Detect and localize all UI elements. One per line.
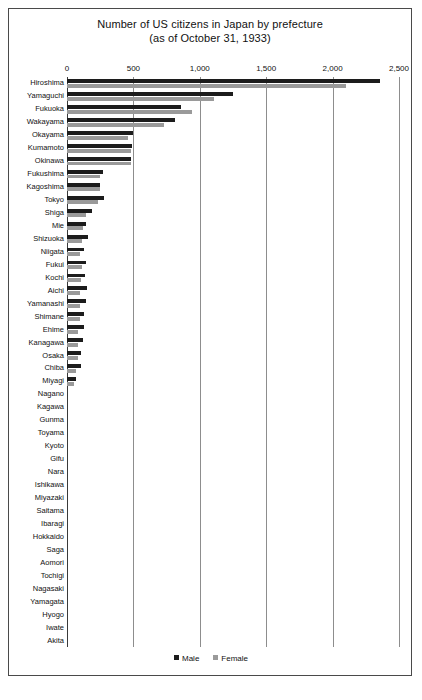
bar-male [67,261,86,265]
bar-row: Aichi [67,284,399,297]
category-label: Aichi [48,287,64,295]
category-label: Fukui [46,261,64,269]
chart-figure: Number of US citizens in Japan by prefec… [8,8,412,676]
bar-row: Kanagawa [67,336,399,349]
bar-row: Hyogo [67,608,399,621]
bar-male [67,377,76,381]
bar-row: Saga [67,543,399,556]
bar-row: Shizuoka [67,232,399,245]
x-axis-tick-labels: 05001,0001,5002,0002,500 [9,64,413,78]
x-tick-label: 500 [127,64,140,73]
category-label: Okinawa [35,157,64,165]
legend-swatch-female [213,655,218,660]
legend-item: Male [174,654,199,663]
bar-male [67,274,85,278]
category-label: Chiba [44,364,64,372]
bar-male [67,118,175,122]
bar-row: Aomori [67,556,399,569]
bar-row: Fukushima [67,168,399,181]
category-label: Mie [52,222,64,230]
category-label: Fukuoka [35,105,64,113]
bar-row: Saitama [67,505,399,518]
category-label: Niigata [41,248,64,256]
bar-female [67,369,76,373]
bar-row: Iwate [67,621,399,634]
bar-male [67,364,81,368]
category-label: Toyama [38,429,64,437]
category-label: Shiga [45,209,64,217]
category-label: Tokyo [44,196,64,204]
bar-female [67,110,192,114]
category-label: Fukushima [27,170,64,178]
legend-label: Male [182,654,199,663]
bar-row: Nagano [67,388,399,401]
bar-row: Miyazaki [67,492,399,505]
category-label: Kyoto [45,442,64,450]
bar-row: Hiroshima [67,77,399,90]
bar-row: Kyoto [67,440,399,453]
bar-female [67,317,80,321]
category-label: Saga [46,546,64,554]
category-label: Nagano [38,390,64,398]
bar-male [67,170,103,174]
bar-row: Shimane [67,310,399,323]
chart-legend: MaleFemale [9,654,413,663]
x-tick-label: 1,000 [190,64,210,73]
bar-male [67,157,131,161]
page-title: Number of US citizens in Japan by prefec… [9,17,411,31]
category-label: Wakayama [27,118,64,126]
bar-rows: HiroshimaYamaguchiFukuokaWakayamaOkayama… [67,77,399,647]
category-label: Aomori [40,559,64,567]
x-tick-label: 2,000 [323,64,343,73]
category-label: Okayama [32,131,64,139]
bar-male [67,131,133,135]
category-label: Gunma [39,416,64,424]
bar-female [67,123,164,127]
category-label: Yamagata [30,598,64,606]
bar-row: Shiga [67,207,399,220]
bar-row: Toyama [67,427,399,440]
category-label: Hokkaido [33,533,64,541]
bar-row: Wakayama [67,116,399,129]
bar-male [67,299,86,303]
category-label: Hyogo [42,611,64,619]
bar-female [67,213,86,217]
bar-male [67,235,88,239]
category-label: Nara [48,468,64,476]
bar-female [67,291,80,295]
plot-area: HiroshimaYamaguchiFukuokaWakayamaOkayama… [67,77,399,647]
bar-female [67,84,346,88]
legend-item: Female [213,654,248,663]
category-label: Ishikawa [35,481,64,489]
bar-row: Akita [67,634,399,647]
bar-female [67,343,78,347]
bar-female [67,187,100,191]
bar-male [67,248,84,252]
category-label: Saitama [36,507,64,515]
bar-male [67,144,132,148]
bar-row: Niigata [67,245,399,258]
category-label: Miyagi [42,377,64,385]
bar-row: Fukuoka [67,103,399,116]
bar-row: Miyagi [67,375,399,388]
bar-female [67,149,131,153]
bar-row: Nara [67,466,399,479]
bar-male [67,312,84,316]
bar-female [67,97,214,101]
bar-row: Tokyo [67,194,399,207]
x-tick-label: 1,500 [256,64,276,73]
bar-row: Fukui [67,258,399,271]
bar-female [67,382,74,386]
bar-male [67,183,100,187]
bar-row: Kagawa [67,401,399,414]
bar-row: Hokkaido [67,530,399,543]
bar-male [67,105,181,109]
category-label: Miyazaki [35,494,64,502]
chart-subtitle: (as of October 31, 1933) [9,31,411,45]
bar-male [67,338,83,342]
bar-male [67,286,87,290]
bar-row: Kumamoto [67,142,399,155]
bar-row: Osaka [67,349,399,362]
bar-female [67,252,80,256]
category-label: Iwate [46,624,64,632]
